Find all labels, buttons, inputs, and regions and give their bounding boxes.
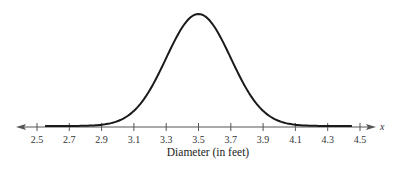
x-tick-label: 4.5 — [354, 134, 367, 145]
x-tick-label: 2.5 — [31, 134, 44, 145]
normal-curve — [45, 14, 352, 126]
x-tick-label: 4.1 — [289, 134, 302, 145]
x-tick-label: 2.7 — [63, 134, 76, 145]
normal-distribution-chart: x 2.52.72.93.13.33.53.73.94.14.34.5 Diam… — [0, 0, 399, 170]
x-tick-label: 3.5 — [192, 134, 205, 145]
x-tick-label: 4.3 — [321, 134, 334, 145]
x-tick-label: 3.9 — [257, 134, 270, 145]
x-tick-label: 3.1 — [128, 134, 141, 145]
x-axis-title: Diameter (in feet) — [167, 146, 250, 159]
x-tick-label: 3.3 — [160, 134, 173, 145]
axis-variable-label: x — [379, 121, 385, 132]
x-tick-label: 3.7 — [225, 134, 238, 145]
x-tick-label: 2.9 — [95, 134, 108, 145]
